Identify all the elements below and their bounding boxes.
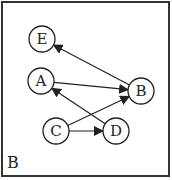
panel-label: B [7, 153, 19, 172]
node-label: D [110, 122, 122, 140]
node-b: B [128, 78, 154, 104]
nodes-layer: EABCD [28, 26, 154, 144]
edge-a-to-b [54, 82, 128, 89]
graph-canvas: EABCD B [0, 0, 172, 180]
node-e: E [29, 26, 55, 52]
node-label: A [35, 72, 47, 90]
node-a: A [28, 68, 54, 94]
diagram-panel: EABCD B [0, 0, 172, 180]
node-c: C [43, 118, 69, 144]
node-label: E [37, 30, 48, 48]
node-d: D [103, 118, 129, 144]
edge-b-to-e [54, 45, 130, 85]
node-label: C [50, 122, 61, 140]
node-label: B [135, 82, 146, 100]
